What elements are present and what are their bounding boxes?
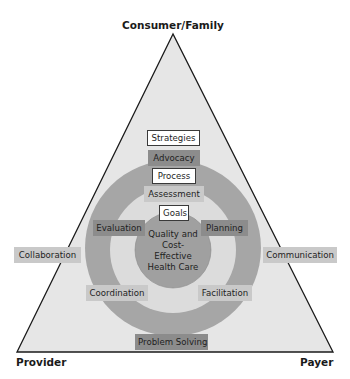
- goal-line-3: Effective: [138, 251, 208, 262]
- strategy-collaboration: Collaboration: [14, 247, 81, 263]
- strategy-problem-solving: Problem Solving: [135, 334, 208, 350]
- goals-header: Goals: [159, 205, 189, 221]
- process-facilitation: Facilitation: [198, 285, 252, 301]
- strategy-advocacy: Advocacy: [148, 150, 200, 166]
- goal-line-1: Quality and: [138, 229, 208, 240]
- vertex-consumer-family: Consumer/Family: [122, 19, 224, 31]
- strategy-communication: Communication: [263, 247, 337, 263]
- process-planning: Planning: [201, 220, 248, 236]
- process-coordination: Coordination: [86, 285, 148, 301]
- strategies-header: Strategies: [147, 130, 200, 146]
- process-assessment: Assessment: [144, 186, 204, 202]
- goal-quality-health-care: Quality and Cost- Effective Health Care: [138, 229, 208, 273]
- goal-line-2: Cost-: [138, 240, 208, 251]
- goal-line-4: Health Care: [138, 262, 208, 273]
- vertex-provider: Provider: [16, 356, 66, 368]
- process-header: Process: [152, 168, 196, 184]
- vertex-payer: Payer: [300, 356, 333, 368]
